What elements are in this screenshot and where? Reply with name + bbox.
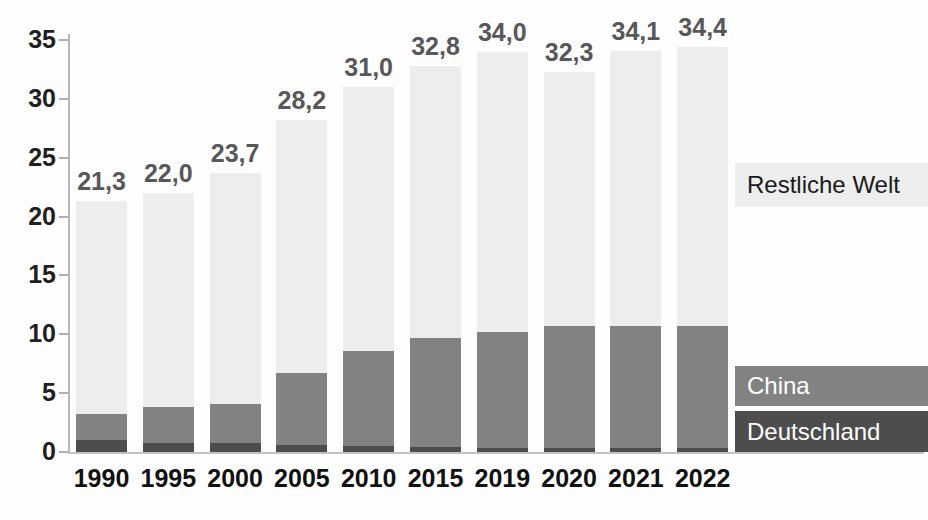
legend-item-deutschland: Deutschland	[735, 411, 928, 452]
bar-segment-china	[210, 404, 261, 443]
bar-value-label: 34,4	[669, 15, 736, 40]
legend-item-china: China	[735, 366, 928, 406]
bar-segment-china	[76, 414, 127, 440]
bar-segment-restliche-welt	[76, 201, 127, 414]
bar-value-label: 28,2	[268, 88, 335, 113]
y-axis-tick-label-text: 5	[4, 380, 56, 405]
bar-value-label: 34,1	[602, 19, 669, 44]
y-axis-tick-label-text: 20	[4, 204, 56, 229]
y-axis-tick-label-text: 35	[4, 27, 56, 52]
bar-segment-deutschland	[610, 448, 661, 452]
y-axis-tick	[59, 274, 69, 276]
bar-segment-deutschland	[410, 447, 461, 452]
legend-label-restliche-welt: Restliche Welt	[747, 173, 900, 197]
table-row	[210, 173, 261, 452]
x-axis-tick-label: 2010	[334, 466, 403, 491]
y-axis-tick-label-text: 10	[4, 321, 56, 346]
y-axis-tick-label: 10	[0, 321, 56, 347]
legend-item-restliche-welt: Restliche Welt	[735, 163, 928, 207]
x-axis-tick-label: 2020	[535, 466, 604, 491]
bar-segment-china	[610, 326, 661, 448]
y-axis-tick-label: 0	[0, 439, 56, 465]
y-axis-tick-label: 25	[0, 145, 56, 171]
table-row	[76, 201, 127, 452]
y-axis-tick-label-text: 0	[4, 439, 56, 464]
bar-segment-restliche-welt	[544, 72, 595, 326]
bar-segment-restliche-welt	[410, 66, 461, 338]
y-axis-tick	[59, 157, 69, 159]
bar-value-label: 31,0	[335, 55, 402, 80]
bar-segment-restliche-welt	[343, 87, 394, 351]
bar-value-label: 34,0	[469, 20, 536, 45]
bar-value-label: 23,7	[202, 141, 269, 166]
table-row	[677, 47, 728, 452]
bar-segment-deutschland	[677, 448, 728, 452]
y-axis-tick	[59, 333, 69, 335]
bar-segment-deutschland	[343, 446, 394, 452]
bar-segment-deutschland	[76, 440, 127, 452]
table-row	[143, 193, 194, 452]
bar-value-label: 21,3	[68, 169, 135, 194]
bar-segment-deutschland	[477, 448, 528, 452]
x-axis-tick-label: 2000	[201, 466, 270, 491]
stacked-bar-chart: 05101520253035 21,322,023,728,231,032,83…	[0, 0, 928, 520]
bar-segment-restliche-welt	[677, 47, 728, 326]
bar-segment-restliche-welt	[610, 51, 661, 326]
y-axis-tick-label-text: 30	[4, 86, 56, 111]
bar-segment-china	[143, 407, 194, 442]
table-row	[477, 52, 528, 452]
x-axis-tick-label: 1995	[134, 466, 203, 491]
x-axis-tick-label: 2022	[668, 466, 737, 491]
x-axis-tick-label: 2021	[601, 466, 670, 491]
y-axis-tick	[59, 39, 69, 41]
bar-segment-china	[544, 326, 595, 448]
x-axis-tick-label: 2019	[468, 466, 537, 491]
x-axis-baseline	[68, 452, 924, 454]
bar-segment-china	[343, 351, 394, 446]
y-axis-tick	[59, 216, 69, 218]
bar-value-label: 32,3	[536, 40, 603, 65]
table-row	[276, 120, 327, 452]
y-axis-tick-label-text: 15	[4, 262, 56, 287]
y-axis-tick	[59, 392, 69, 394]
y-axis-tick-label: 20	[0, 204, 56, 230]
bar-segment-restliche-welt	[477, 52, 528, 332]
y-axis-tick-label: 30	[0, 86, 56, 112]
bar-segment-deutschland	[276, 445, 327, 452]
bar-segment-restliche-welt	[210, 173, 261, 404]
legend-label-china: China	[747, 374, 810, 398]
table-row	[544, 72, 595, 452]
x-axis-tick-label: 2005	[267, 466, 336, 491]
table-row	[410, 66, 461, 452]
bar-segment-deutschland	[143, 443, 194, 452]
y-axis-tick	[59, 98, 69, 100]
bar-segment-deutschland	[544, 448, 595, 452]
y-axis-tick-label: 15	[0, 262, 56, 288]
y-axis-tick-label: 5	[0, 380, 56, 406]
bar-value-label: 22,0	[135, 161, 202, 186]
bar-segment-china	[677, 326, 728, 448]
table-row	[610, 51, 661, 452]
bar-segment-restliche-welt	[276, 120, 327, 373]
table-row	[343, 87, 394, 452]
bar-segment-restliche-welt	[143, 193, 194, 407]
legend-label-deutschland: Deutschland	[747, 420, 880, 444]
y-axis-tick-label: 35	[0, 27, 56, 53]
x-axis-tick-label: 2015	[401, 466, 470, 491]
bar-segment-china	[477, 332, 528, 448]
y-axis-tick-label-text: 25	[4, 145, 56, 170]
y-axis-tick	[59, 451, 69, 453]
bar-segment-deutschland	[210, 443, 261, 452]
bar-segment-china	[410, 338, 461, 447]
bar-value-label: 32,8	[402, 34, 469, 59]
x-axis-tick-label: 1990	[67, 466, 136, 491]
bar-segment-china	[276, 373, 327, 445]
